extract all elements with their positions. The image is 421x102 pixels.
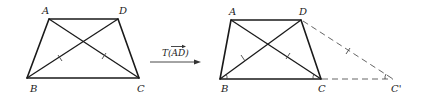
left-label-b: B: [29, 83, 37, 94]
right-diagonal-bd: [220, 20, 301, 79]
right-label-c: C: [318, 83, 326, 94]
left-trapezoid: A D B C: [27, 5, 145, 94]
right-label-d: D: [298, 6, 307, 17]
right-label-b: B: [220, 83, 228, 94]
left-label-d: D: [118, 5, 127, 16]
left-diagonal-bd: [27, 19, 118, 78]
translation-arrow: T(AD): [150, 45, 201, 65]
arrow-label: T(AD): [162, 48, 189, 58]
dashed-segment-dc-prime: [303, 21, 393, 79]
angle-arc-c-prime: [385, 74, 386, 79]
right-side-dc: [301, 20, 321, 79]
left-side-dc: [118, 19, 139, 78]
arrow-head: [194, 60, 201, 65]
right-label-a: A: [228, 6, 236, 17]
geometry-diagram: A D B C T(AD) A D B C C': [0, 0, 421, 102]
left-label-a: A: [41, 5, 49, 16]
left-side-ab: [27, 19, 49, 78]
right-diagonal-ac: [231, 20, 321, 79]
right-side-ab: [220, 20, 231, 79]
arrow-label-vector: AD: [171, 48, 186, 58]
arrow-label-prefix: T(: [162, 48, 172, 58]
left-diagonal-ac: [49, 19, 139, 78]
left-label-c: C: [137, 83, 145, 94]
right-trapezoid: A D B C C': [220, 6, 401, 94]
right-label-c-prime: C': [391, 83, 401, 94]
right-tick-bd: [241, 55, 245, 61]
arrow-label-suffix: ): [184, 48, 189, 58]
